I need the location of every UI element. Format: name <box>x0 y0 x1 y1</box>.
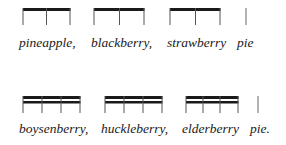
beam-group-pineapple <box>23 8 71 25</box>
stem <box>61 96 62 113</box>
word-blackberry: blackberry, <box>91 36 152 50</box>
stem <box>162 96 163 113</box>
beam-group-boysenberry <box>23 96 81 113</box>
stem <box>220 8 221 25</box>
stem <box>238 96 239 113</box>
beam-secondary <box>105 101 163 104</box>
stem <box>124 96 125 113</box>
stem <box>170 8 171 25</box>
beam-secondary <box>186 101 239 104</box>
beam-group-strawberry <box>170 8 221 25</box>
stem <box>80 96 81 113</box>
stem <box>105 96 106 113</box>
stem <box>23 96 24 113</box>
beam-group-elderberry <box>186 96 239 113</box>
stem <box>203 96 204 113</box>
stem <box>119 8 120 25</box>
stem <box>94 8 95 25</box>
quarter-note-pie <box>258 96 259 113</box>
stem <box>46 8 47 25</box>
stem <box>144 8 145 25</box>
stem <box>195 8 196 25</box>
stem <box>220 96 221 113</box>
quarter-note-pie <box>246 8 247 25</box>
beam-secondary <box>23 101 81 104</box>
word-elderberry: elderberry <box>182 122 239 136</box>
stem <box>42 96 43 113</box>
beam-primary <box>186 96 239 99</box>
beam-group-blackberry <box>94 8 145 25</box>
row-2-notation <box>23 96 259 113</box>
stem <box>23 8 24 25</box>
word-strawberry: strawberry <box>167 36 226 50</box>
word-huckleberry: huckleberry, <box>101 122 168 136</box>
stem <box>258 96 259 113</box>
beam-primary <box>105 96 163 99</box>
word-pie-final: pie. <box>250 122 270 136</box>
word-boysenberry: boysenberry, <box>19 122 88 136</box>
stem <box>143 96 144 113</box>
stem <box>246 8 247 25</box>
row-1-notation <box>23 8 247 25</box>
stem <box>70 8 71 25</box>
beam-primary <box>23 96 81 99</box>
beam-group-huckleberry <box>105 96 163 113</box>
word-pineapple: pineapple, <box>19 36 76 50</box>
stem <box>186 96 187 113</box>
word-pie: pie <box>237 36 254 50</box>
